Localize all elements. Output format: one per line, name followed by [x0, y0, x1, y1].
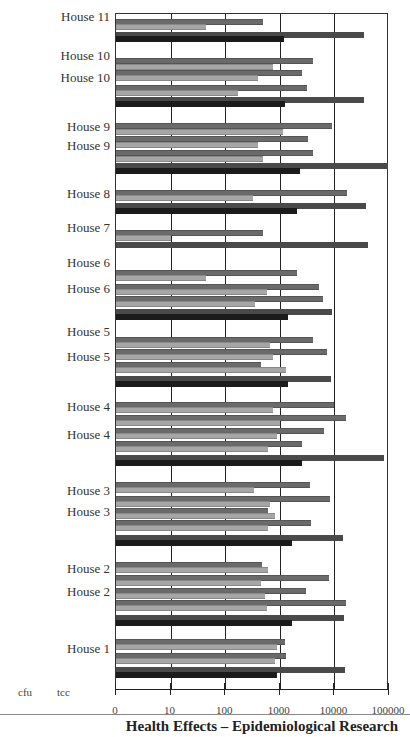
bar-house-5 — [116, 367, 286, 373]
category-label: House 5 — [67, 349, 110, 365]
bar-house-2 — [116, 567, 268, 573]
category-label: House 9 — [67, 138, 110, 154]
bar-house-4 — [116, 446, 268, 452]
bar-house-11 — [116, 24, 206, 30]
category-label: House 3 — [67, 504, 110, 520]
x-axis-line — [115, 689, 388, 690]
gridline — [334, 14, 335, 689]
bar-house-9 — [116, 168, 300, 174]
bar-house-4 — [116, 407, 273, 413]
bar-house-11 — [116, 36, 284, 42]
bar-house-10 — [116, 75, 258, 81]
bar-house-1 — [116, 658, 275, 664]
category-label: House 10 — [61, 48, 110, 64]
bar-house-1 — [116, 644, 277, 650]
bar-house-6 — [116, 301, 255, 307]
bar-house-6 — [116, 314, 288, 320]
tick-mark — [333, 683, 334, 695]
category-label: House 4 — [67, 427, 110, 443]
bar-house-3 — [116, 525, 268, 531]
bar-house-4 — [116, 460, 302, 466]
bar-house-5 — [116, 354, 273, 360]
category-label: House 11 — [61, 9, 110, 25]
bar-house-9 — [116, 129, 283, 135]
bar-house-7 — [116, 235, 171, 241]
bar-house-9 — [116, 156, 263, 162]
bar-house-3 — [116, 501, 270, 507]
bar-house-4 — [116, 420, 280, 426]
tick-mark — [170, 683, 171, 695]
category-label: House 9 — [67, 119, 110, 135]
bar-house-1 — [116, 672, 277, 678]
footer-title: Health Effects – Epidemiological Researc… — [126, 718, 398, 735]
chart-plot-area — [115, 13, 388, 690]
category-label: House 10 — [61, 70, 110, 86]
bar-house-2 — [116, 620, 292, 626]
category-label: House 6 — [67, 281, 110, 297]
bar-house-2 — [116, 580, 261, 586]
tick-mark — [224, 683, 225, 695]
bar-house-5 — [116, 342, 270, 348]
bar-house-6 — [116, 275, 206, 281]
category-label: House 3 — [67, 483, 110, 499]
tick-mark — [115, 683, 116, 695]
bar-house-3 — [116, 513, 275, 519]
bar-house-10 — [116, 90, 238, 96]
bar-house-6 — [116, 289, 267, 295]
category-label: House 4 — [67, 399, 110, 415]
bar-house-5 — [116, 381, 288, 387]
bar-house-4 — [116, 433, 277, 439]
category-label: House 8 — [67, 186, 110, 202]
bar-house-7 — [116, 242, 368, 248]
bar-house-10 — [116, 101, 285, 107]
bar-house-8 — [116, 195, 253, 201]
category-label: House 1 — [67, 641, 110, 657]
legend-tcc: tcc — [57, 686, 70, 698]
category-label: House 5 — [67, 324, 110, 340]
category-label: House 2 — [67, 561, 110, 577]
bar-house-2 — [116, 593, 265, 599]
footer-divider — [0, 714, 410, 715]
bar-house-9 — [116, 142, 258, 148]
legend-cfu: cfu — [18, 686, 32, 698]
bar-house-3 — [116, 540, 292, 546]
bar-house-2 — [116, 605, 267, 611]
tick-mark — [388, 683, 389, 695]
bar-house-3 — [116, 487, 254, 493]
bar-house-8 — [116, 208, 297, 214]
tick-mark — [279, 683, 280, 695]
category-label: House 2 — [67, 584, 110, 600]
category-label: House 7 — [67, 220, 110, 236]
category-label: House 6 — [67, 255, 110, 271]
